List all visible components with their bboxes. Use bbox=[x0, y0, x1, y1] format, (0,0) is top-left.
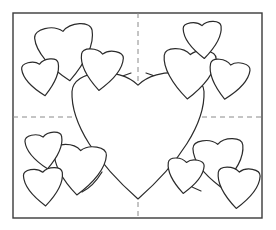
hearts-artboard bbox=[0, 0, 276, 230]
coloring-page-root: Hearts Coloring Page bbox=[0, 0, 276, 230]
